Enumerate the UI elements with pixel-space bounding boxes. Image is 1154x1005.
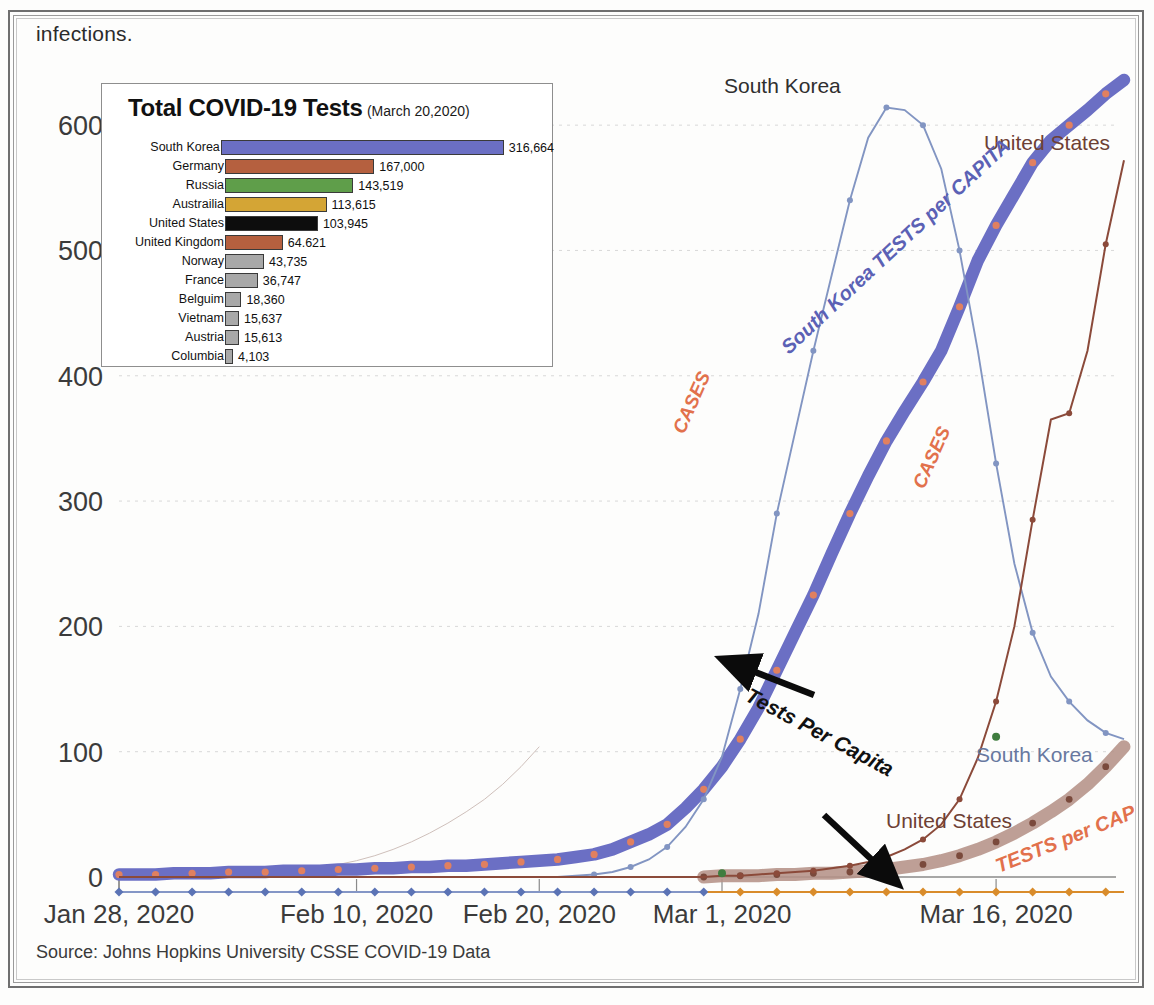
inset-bar-value: 64.621	[288, 236, 326, 250]
label-south-korea-top: South Korea	[724, 74, 841, 97]
inset-bar-country: Austrailia	[102, 195, 225, 214]
inset-bar-value: 18,360	[246, 293, 284, 307]
inset-bar-country: Russia	[102, 176, 225, 195]
sk-tests-marker	[444, 862, 451, 869]
sk-cases-marker	[957, 247, 963, 253]
inset-bar-row: Russia143,519	[102, 176, 554, 195]
us-cases-marker	[883, 854, 889, 860]
sk-tests-marker	[408, 863, 415, 870]
sk-tests-marker	[810, 591, 817, 598]
sk-cases-marker	[701, 796, 707, 802]
x-tick-label: Feb 10, 2020	[280, 899, 433, 929]
inset-bar-rows: South Korea316,664Germany167,000Russia14…	[102, 138, 554, 366]
inset-bar	[225, 273, 258, 288]
sk-cases-marker	[1066, 699, 1072, 705]
baseline-marker	[663, 888, 672, 897]
inset-bar	[225, 159, 374, 174]
sk-cases-marker	[628, 864, 634, 870]
inset-bar-value: 103,945	[323, 217, 368, 231]
label-tests-per-capita-arrow: Tests Per Capita	[742, 683, 898, 780]
baseline-marker	[224, 888, 233, 897]
inset-bar-track: 18,360	[225, 292, 554, 307]
baseline-marker	[553, 888, 562, 897]
sk-tests-marker	[664, 821, 671, 828]
y-tick-label: 200	[58, 612, 103, 642]
us-tests-marker	[1102, 763, 1109, 770]
sk-cases-marker	[737, 686, 743, 692]
inset-bar-track: 4,103	[225, 349, 554, 364]
baseline-marker	[772, 888, 781, 897]
inset-bar-country: South Korea	[102, 138, 221, 157]
inset-bar-row: Austria15,613	[102, 328, 554, 347]
inset-bar	[225, 254, 264, 269]
sk-tests-marker	[1066, 122, 1073, 129]
y-tick-label: 0	[88, 863, 103, 893]
baseline-marker	[443, 888, 452, 897]
label-united-states-low: United States	[886, 809, 1012, 832]
inset-bar-row: Norway43,735	[102, 252, 554, 271]
scanned-page: infections. 0100200300400500600Jan 28, 2…	[0, 0, 1154, 1005]
us-tests-marker	[847, 869, 854, 876]
inset-bar-value: 167,000	[379, 160, 424, 174]
sk-cases-marker	[664, 844, 670, 850]
y-tick-label: 100	[58, 738, 103, 768]
inset-bar	[225, 292, 241, 307]
baseline-marker	[918, 888, 927, 897]
baseline-marker	[809, 888, 818, 897]
inset-bar-track: 103,945	[225, 216, 554, 231]
sk-cases-marker	[774, 511, 780, 517]
us-cases-marker	[1030, 517, 1036, 523]
label-cases-left: CASES	[668, 368, 714, 437]
inset-bar-row: Columbia4,103	[102, 347, 554, 366]
sk-tests-marker	[225, 868, 232, 875]
baseline-marker	[114, 888, 123, 897]
inset-bar-country: Norway	[102, 252, 225, 271]
sk-tests-marker	[1102, 90, 1109, 97]
baseline-marker	[188, 888, 197, 897]
us-cases-marker	[920, 836, 926, 842]
label-south-korea-right: South Korea	[976, 743, 1093, 766]
us-tests-marker	[1066, 796, 1073, 803]
y-tick-label: 300	[58, 487, 103, 517]
baseline-marker	[1028, 888, 1037, 897]
baseline-marker	[955, 888, 964, 897]
inset-bar-country: Belguim	[102, 290, 225, 309]
baseline-marker	[151, 888, 160, 897]
inset-bar-row: Belguim18,360	[102, 290, 554, 309]
inset-bar-track: 15,613	[225, 330, 554, 345]
us-cases-marker	[847, 863, 853, 869]
sk-tests-marker	[517, 858, 524, 865]
green-marker-right	[992, 733, 1000, 741]
sk-tests-marker	[956, 303, 963, 310]
us-cases-marker	[1066, 410, 1072, 416]
sk-tests-marker	[590, 851, 597, 858]
inset-bar-value: 113,615	[332, 198, 376, 212]
baseline-marker	[845, 888, 854, 897]
inset-bar-track: 167,000	[225, 159, 554, 174]
y-tick-label: 500	[58, 236, 103, 266]
inset-bar	[225, 178, 353, 193]
x-tick-label: Mar 16, 2020	[919, 899, 1072, 929]
inset-bar-value: 15,613	[244, 331, 282, 345]
inset-bar	[225, 311, 239, 326]
inset-bar-value: 15,637	[244, 312, 282, 326]
sk-tests-marker	[554, 856, 561, 863]
inset-bar-value: 316,664	[509, 141, 554, 155]
inset-bar-track: 316,664	[221, 140, 554, 155]
sk-cases-marker	[993, 460, 999, 466]
sk-cases-marker	[920, 122, 926, 128]
sk-tests-marker	[262, 868, 269, 875]
baseline-marker	[699, 888, 708, 897]
baseline-marker	[1101, 888, 1110, 897]
sk-tests-marker	[335, 866, 342, 873]
inset-title: Total COVID-19 Tests (March 20,2020)	[128, 94, 470, 122]
inset-bar-value: 143,519	[358, 179, 403, 193]
us-tests-marker	[956, 852, 963, 859]
sk-cases-marker	[1030, 630, 1036, 636]
sk-tests-marker	[737, 736, 744, 743]
inset-bar-row: Germany167,000	[102, 157, 554, 176]
inset-bar-row: Austrailia113,615	[102, 195, 554, 214]
baseline-marker	[626, 888, 635, 897]
green-marker-left	[718, 869, 726, 877]
inset-bar-country: Vietnam	[102, 309, 225, 328]
